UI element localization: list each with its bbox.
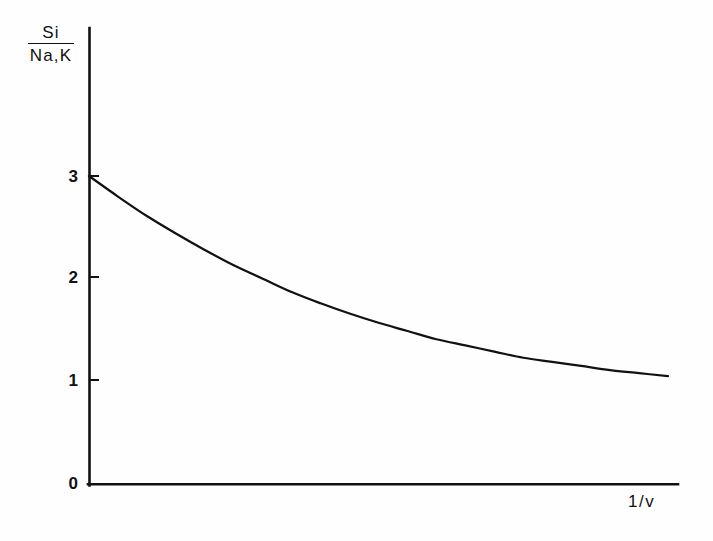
plot-area [0,0,713,541]
data-series-line [89,176,668,376]
figure-canvas: Si Na,K 1/v 3 2 1 0 [0,0,713,541]
